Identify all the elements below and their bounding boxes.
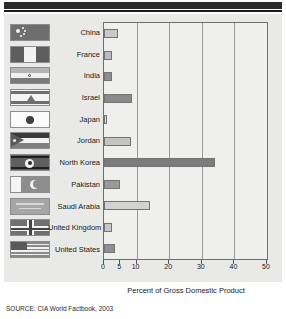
flag-japan xyxy=(10,111,50,128)
axis-tick-label: 10 xyxy=(132,263,140,270)
category-label: United States xyxy=(48,241,103,258)
bar xyxy=(104,180,120,189)
x-axis-title: Percent of Gross Domestic Product xyxy=(103,286,269,295)
axis-tick-label: 40 xyxy=(229,263,237,270)
category-label: India xyxy=(48,67,103,84)
flag-north-korea xyxy=(10,154,50,171)
flag-france xyxy=(10,46,50,63)
bar-row xyxy=(104,111,267,128)
category-label: United Kingdom xyxy=(48,219,103,236)
flag-china xyxy=(10,24,50,41)
category-label: China xyxy=(48,24,103,41)
flag-india xyxy=(10,67,50,84)
flag-saudi-arabia xyxy=(10,198,50,215)
bar xyxy=(104,72,112,81)
flag-israel xyxy=(10,89,50,106)
bar-row xyxy=(104,68,267,85)
axis-tick-label: 0 xyxy=(101,263,105,270)
header-rule xyxy=(4,10,282,12)
axis-tick-label: 30 xyxy=(197,263,205,270)
axis-tick-label: 5 xyxy=(117,263,121,270)
axis-tick-label: 50 xyxy=(262,263,270,270)
x-axis: 051020304050 xyxy=(103,260,269,270)
bar-row xyxy=(104,133,267,150)
bar-row xyxy=(104,197,267,214)
flag-jordan xyxy=(10,132,50,149)
bar xyxy=(104,137,131,146)
bar xyxy=(104,51,112,60)
bar xyxy=(104,201,150,210)
bar-row xyxy=(104,25,267,42)
source-note: SOURCE: CIA World Factbook, 2003 xyxy=(6,305,113,312)
bar xyxy=(104,158,215,167)
category-label: France xyxy=(48,46,103,63)
category-label: North Korea xyxy=(48,154,103,171)
flag-united-kingdom xyxy=(10,219,50,236)
category-label: Israel xyxy=(48,89,103,106)
category-label-column: China France India Israel Japan Jordan N… xyxy=(48,24,103,258)
bar-row xyxy=(104,47,267,64)
bar-series xyxy=(104,25,267,257)
bar-row xyxy=(104,240,267,257)
bar-row xyxy=(104,219,267,236)
header-band xyxy=(4,2,282,9)
bar-row xyxy=(104,154,267,171)
bar xyxy=(104,223,112,232)
axis-tick-label: 20 xyxy=(164,263,172,270)
bar-row xyxy=(104,176,267,193)
flag-column xyxy=(10,24,50,258)
category-label: Pakistan xyxy=(48,176,103,193)
category-label: Jordan xyxy=(48,132,103,149)
flag-pakistan xyxy=(10,176,50,193)
flag-united-states xyxy=(10,241,50,258)
bar xyxy=(104,115,107,124)
category-label: Saudi Arabia xyxy=(48,198,103,215)
figure-root: China France India Israel Japan Jordan N… xyxy=(0,0,286,319)
category-label: Japan xyxy=(48,111,103,128)
plot-area xyxy=(103,22,268,260)
bar xyxy=(104,29,118,38)
bar-row xyxy=(104,90,267,107)
bar xyxy=(104,94,132,103)
bar xyxy=(104,244,115,253)
